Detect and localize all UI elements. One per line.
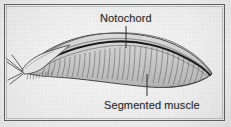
label-notochord: Notochord <box>100 12 152 24</box>
oral-cirri-bristles <box>6 55 23 84</box>
figure-panel: Notochord Segmented muscle <box>0 0 231 127</box>
label-segmented-muscle: Segmented muscle <box>104 99 200 111</box>
